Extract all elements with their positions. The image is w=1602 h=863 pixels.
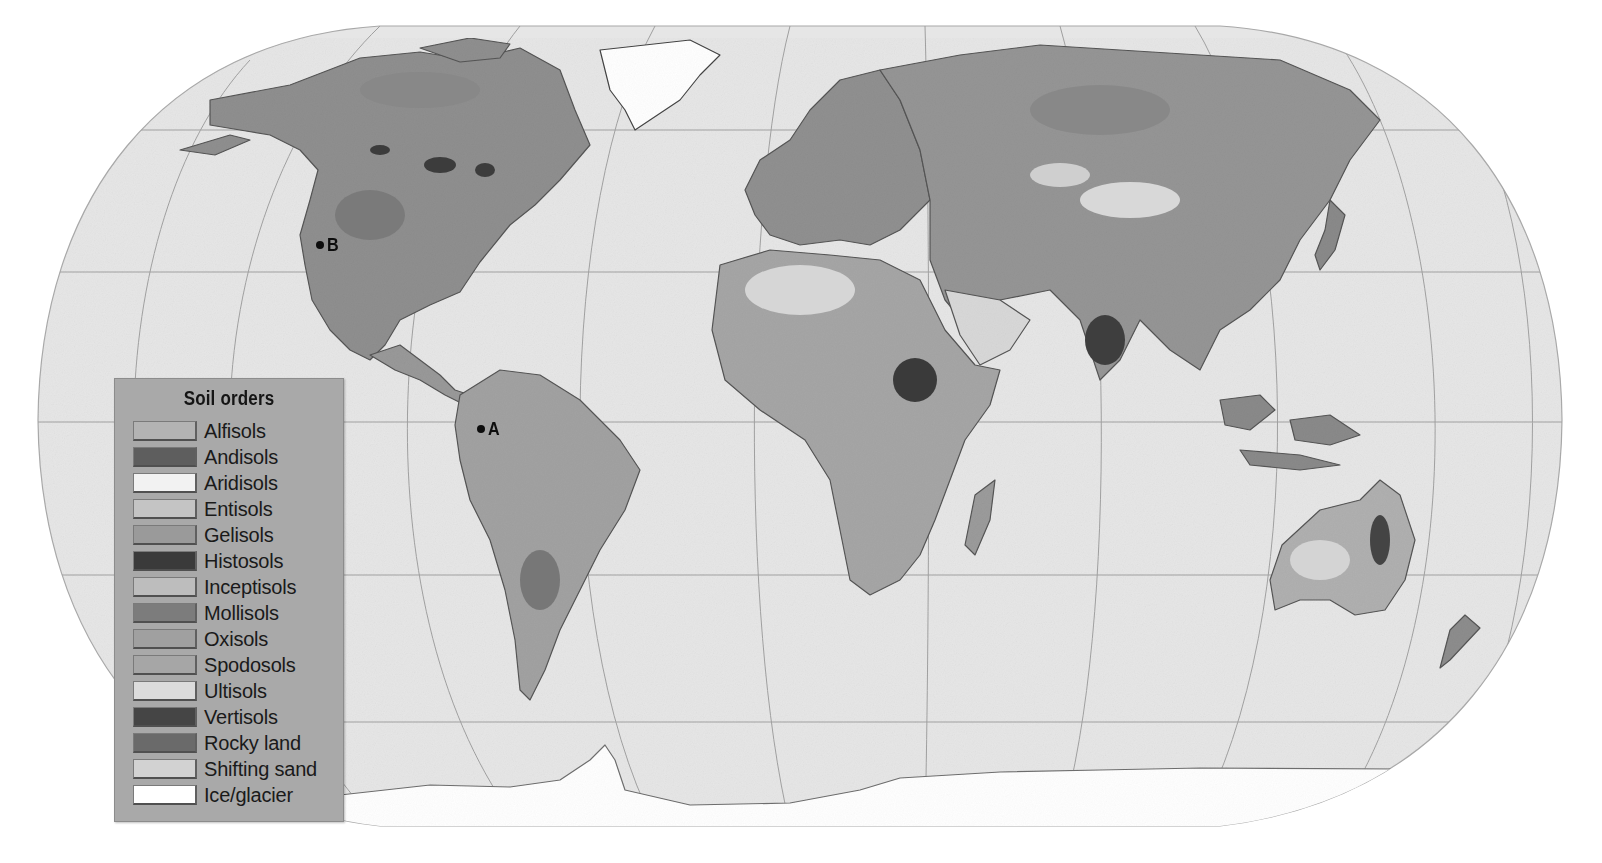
legend-swatch [133,759,197,779]
legend-item-vertisols: Vertisols [133,705,278,729]
legend-item-aridisols: Aridisols [133,471,278,495]
legend-swatch [133,525,197,545]
legend-swatch [133,707,197,727]
legend-label: Oxisols [204,628,268,651]
legend-item-andisols: Andisols [133,445,278,469]
legend-item-mollisols: Mollisols [133,601,279,625]
legend-swatch [133,499,197,519]
legend-item-spodosols: Spodosols [133,653,296,677]
legend-swatch [133,733,197,753]
legend-label: Alfisols [204,420,266,443]
legend-swatch [133,655,197,675]
marker-b-label: B [327,234,339,256]
legend-label: Aridisols [204,472,278,495]
legend-swatch [133,681,197,701]
legend-label: Gelisols [204,524,274,547]
legend-swatch [133,447,197,467]
legend-label: Vertisols [204,706,278,729]
marker-b-dot [316,241,324,249]
legend-item-shifting-sand: Shifting sand [133,757,317,781]
legend-label: Andisols [204,446,278,469]
legend-item-inceptisols: Inceptisols [133,575,296,599]
legend-label: Rocky land [204,732,301,755]
legend-swatch [133,421,197,441]
legend-label: Ultisols [204,680,267,703]
legend-label: Shifting sand [204,758,317,781]
legend-swatch [133,577,197,597]
legend-label: Inceptisols [204,576,296,599]
marker-a: A [477,418,501,440]
legend-item-entisols: Entisols [133,497,272,521]
legend-item-rocky-land: Rocky land [133,731,301,755]
legend-label: Entisols [204,498,272,521]
legend-label: Spodosols [204,654,296,677]
legend-item-gelisols: Gelisols [133,523,274,547]
marker-a-label: A [488,418,500,440]
legend: Soil orders Alfisols Andisols Aridisols … [114,378,344,822]
legend-swatch [133,473,197,493]
legend-swatch [133,785,197,805]
legend-item-ice-glacier: Ice/glacier [133,783,293,807]
legend-swatch [133,551,197,571]
legend-label: Ice/glacier [204,784,293,807]
marker-a-dot [477,425,485,433]
marker-b: B [316,234,340,256]
legend-label: Histosols [204,550,283,573]
legend-label: Mollisols [204,602,279,625]
legend-item-oxisols: Oxisols [133,627,268,651]
legend-swatch [133,603,197,623]
legend-swatch [133,629,197,649]
legend-title: Soil orders [132,387,326,410]
legend-item-alfisols: Alfisols [133,419,266,443]
legend-item-histosols: Histosols [133,549,283,573]
legend-item-ultisols: Ultisols [133,679,267,703]
